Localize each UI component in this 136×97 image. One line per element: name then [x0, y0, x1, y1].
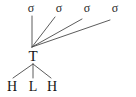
sigma-bond-line-3: [32, 19, 82, 47]
ligand-label-l-center: L: [29, 80, 38, 94]
ligand-bond-line-h-left: [13, 64, 33, 78]
ligand-bond-line-h-right: [33, 64, 51, 78]
center-atom-label-t: T: [28, 49, 37, 64]
sigma-label-2: σ: [56, 2, 62, 14]
sigma-bond-line-4: [32, 20, 110, 47]
ligand-label-h-left: H: [7, 80, 17, 94]
ligand-label-h-right: H: [47, 80, 57, 94]
sigma-label-3: σ: [84, 2, 90, 14]
bonding-diagram: σ σ σ σ T H L H: [0, 0, 136, 97]
sigma-label-1: σ: [28, 2, 34, 14]
sigma-bond-line-2: [32, 17, 55, 47]
sigma-label-4: σ: [112, 2, 118, 14]
